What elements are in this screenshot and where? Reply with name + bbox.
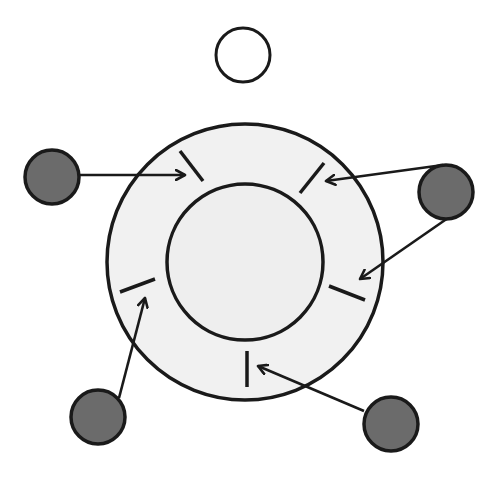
particle-bottom-right <box>364 397 418 451</box>
inner-core-circle <box>167 184 323 340</box>
particle-right <box>419 165 473 219</box>
free-particle-circle <box>216 28 270 82</box>
receptor-binding-diagram <box>0 0 496 477</box>
particle-left <box>25 150 79 204</box>
particle-bottom-left <box>71 390 125 444</box>
